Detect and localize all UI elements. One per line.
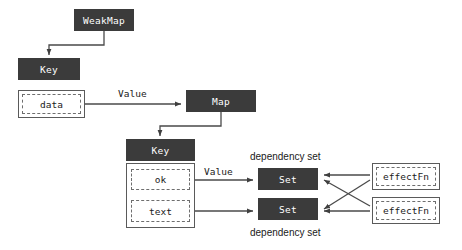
node-map[interactable]: Map bbox=[186, 90, 256, 112]
node-data-label: data bbox=[40, 99, 63, 110]
node-props-container[interactable]: ok text bbox=[126, 163, 195, 228]
group-label-dependency-set-bottom: dependency set bbox=[250, 227, 321, 238]
node-key-top[interactable]: Key bbox=[18, 58, 80, 80]
node-effectfn-bottom-container[interactable]: effectFn bbox=[372, 197, 440, 224]
edge-map-to-key bbox=[160, 112, 221, 136]
node-prop-ok-label: ok bbox=[155, 174, 166, 185]
node-prop-ok[interactable]: ok bbox=[131, 169, 190, 190]
edge-weakmap-to-key bbox=[49, 31, 104, 55]
node-effectfn-bottom-label: effectFn bbox=[383, 205, 429, 216]
node-key-mid[interactable]: Key bbox=[126, 139, 195, 161]
edge-effect-top-to-set-bottom bbox=[324, 180, 370, 209]
node-weakmap[interactable]: WeakMap bbox=[74, 9, 134, 31]
node-map-label: Map bbox=[212, 96, 230, 107]
node-data-container[interactable]: data bbox=[18, 90, 85, 118]
node-effectfn-top-label: effectFn bbox=[383, 171, 429, 182]
node-effectfn-top-container[interactable]: effectFn bbox=[372, 163, 440, 190]
edge-label-value-data-map: Value bbox=[118, 88, 147, 99]
node-prop-text[interactable]: text bbox=[131, 200, 190, 222]
group-label-dependency-set-top: dependency set bbox=[250, 151, 321, 162]
node-key-top-label: Key bbox=[40, 64, 58, 75]
node-set-bottom[interactable]: Set bbox=[258, 198, 318, 220]
node-effectfn-bottom[interactable]: effectFn bbox=[376, 201, 436, 220]
edge-effect-bottom-to-set-top bbox=[324, 180, 370, 206]
node-set-bottom-label: Set bbox=[279, 204, 297, 215]
node-effectfn-top[interactable]: effectFn bbox=[376, 167, 436, 186]
node-set-top-label: Set bbox=[279, 174, 297, 185]
node-prop-text-label: text bbox=[149, 206, 172, 217]
diagram-canvas: WeakMap Key data Map Key ok text Set Set… bbox=[0, 0, 462, 250]
edge-label-value-ok-set: Value bbox=[204, 166, 233, 177]
node-set-top[interactable]: Set bbox=[258, 168, 318, 190]
node-data[interactable]: data bbox=[22, 94, 81, 114]
node-key-mid-label: Key bbox=[151, 145, 169, 156]
node-weakmap-label: WeakMap bbox=[83, 15, 125, 26]
